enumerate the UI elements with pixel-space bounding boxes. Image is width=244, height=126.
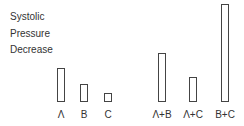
x-tick-label: B+C	[210, 109, 240, 120]
x-tick-label: C	[93, 109, 123, 120]
bar	[80, 84, 88, 102]
bar	[158, 53, 166, 102]
y-axis-label-line-2: Pressure	[10, 26, 53, 43]
x-tick-label: Λ+B	[147, 109, 177, 120]
y-axis-label-line-3: Decrease	[10, 42, 53, 59]
y-axis-label: Systolic Pressure Decrease	[10, 9, 53, 59]
bar	[104, 93, 112, 102]
x-tick-label: Λ+C	[178, 109, 208, 120]
bar	[57, 68, 65, 102]
bar	[221, 4, 229, 102]
y-axis-label-line-1: Systolic	[10, 9, 53, 26]
bar	[189, 77, 197, 102]
